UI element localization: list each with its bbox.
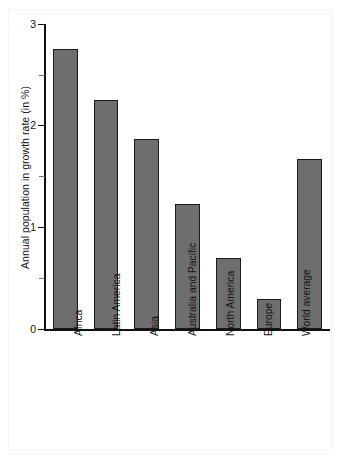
y-minor-tick-0point5 bbox=[39, 278, 45, 279]
y-axis-title: Annual population in growth rate (in %) bbox=[16, 25, 34, 330]
y-minor-tick-1point5 bbox=[39, 176, 45, 177]
x-tick-label-africa: Africa bbox=[72, 310, 86, 336]
x-tick-label-australia-and-pacific: Australia and Pacific bbox=[186, 243, 200, 336]
y-tick-label-1: 1 bbox=[8, 222, 36, 232]
x-tick-label-latin-america: Latin America bbox=[110, 274, 124, 336]
y-tick-label-3: 3 bbox=[8, 19, 36, 29]
figure: Annual population in growth rate (in %) … bbox=[0, 0, 341, 459]
x-tick-label-world-average: World average bbox=[300, 269, 314, 336]
y-tick-2: 2 bbox=[0, 120, 36, 130]
y-tick-0: 0 bbox=[0, 324, 36, 334]
y-tick-1: 1 bbox=[0, 222, 36, 232]
y-tick-label-2: 2 bbox=[8, 120, 36, 130]
x-tick-label-asia: Asia bbox=[148, 316, 162, 336]
bar-africa bbox=[53, 49, 78, 329]
x-tick-label-europe: Europe bbox=[262, 303, 276, 336]
bar-asia bbox=[134, 139, 159, 329]
y-minor-tick-2point5 bbox=[39, 75, 45, 76]
x-tick-label-north-america: North America bbox=[224, 271, 238, 336]
y-tick-3: 3 bbox=[0, 19, 36, 29]
y-tick-label-0: 0 bbox=[8, 324, 36, 334]
